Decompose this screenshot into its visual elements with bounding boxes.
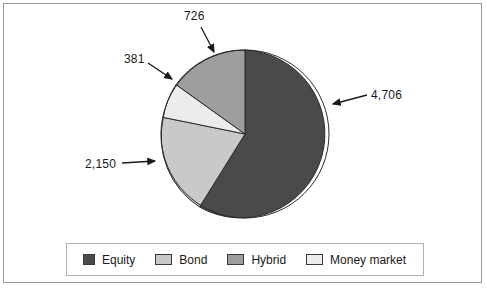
- legend-swatch-money-market: [306, 254, 323, 265]
- callout-label-money-market: 381: [124, 52, 145, 66]
- callout-label-hybrid: 726: [184, 9, 205, 23]
- legend-item-equity[interactable]: Equity: [77, 253, 135, 267]
- callout-label-bond: 2,150: [85, 157, 116, 171]
- pie-chart-figure: 726 381 2,150 4,706 Equity Bond Hybrid M…: [0, 0, 487, 288]
- callout-arrow-money-market: [148, 63, 172, 79]
- chart-legend: Equity Bond Hybrid Money market: [66, 243, 424, 276]
- callout-arrow-hybrid: [201, 27, 214, 52]
- legend-swatch-bond: [155, 254, 172, 265]
- legend-label-hybrid: Hybrid: [251, 253, 286, 267]
- legend-label-money-market: Money market: [330, 253, 406, 267]
- legend-swatch-hybrid: [227, 254, 244, 265]
- callout-label-equity: 4,706: [371, 88, 402, 102]
- legend-label-equity: Equity: [102, 253, 135, 267]
- legend-item-hybrid[interactable]: Hybrid: [227, 253, 286, 267]
- callout-arrow-bond: [122, 161, 155, 163]
- legend-swatch-equity: [83, 254, 95, 265]
- legend-item-bond[interactable]: Bond: [155, 253, 207, 267]
- callout-arrow-equity: [333, 95, 367, 104]
- legend-label-bond: Bond: [179, 253, 207, 267]
- legend-item-money-market[interactable]: Money market: [306, 253, 406, 267]
